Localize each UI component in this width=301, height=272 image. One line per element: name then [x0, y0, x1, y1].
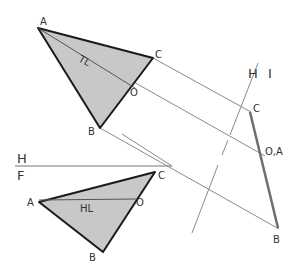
fold-hf-label-f: F	[17, 168, 24, 183]
front-label-o: O	[136, 197, 144, 208]
edge-view-line	[250, 112, 278, 228]
top-label-a: A	[40, 16, 47, 27]
top-label-b: B	[88, 126, 95, 137]
front-label-c: C	[158, 170, 165, 181]
front-view-triangle	[39, 172, 155, 252]
top-label-c: C	[155, 49, 162, 60]
descriptive-geometry-diagram: A C B O TL H I C O,A B H F A C B O HL	[0, 0, 301, 272]
front-label-a: A	[27, 197, 34, 208]
horizontal-line-label: HL	[80, 203, 94, 214]
fold-line-h-i	[192, 63, 258, 233]
aux-label-oa: O,A	[265, 146, 283, 157]
aux-label-c: C	[253, 103, 260, 114]
top-label-o: O	[130, 87, 138, 98]
top-view-triangle	[38, 28, 153, 128]
fold-hi-label-i: I	[268, 66, 272, 81]
projector-c	[153, 58, 251, 112]
fold-hi-label-h: H	[248, 66, 258, 81]
projector-h-f-extension	[122, 134, 172, 166]
front-label-b: B	[89, 252, 96, 263]
fold-hf-label-h: H	[17, 151, 27, 166]
aux-label-b: B	[273, 234, 280, 245]
